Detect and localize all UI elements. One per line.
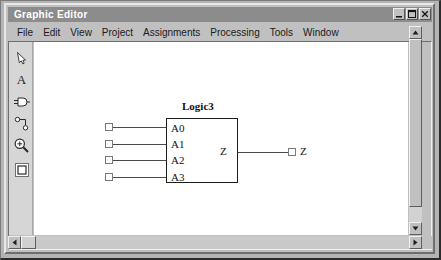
- output-wire-z[interactable]: [238, 152, 288, 153]
- magnifier-plus-icon: [13, 137, 30, 154]
- tool-palette: A: [9, 42, 33, 235]
- horizontal-scrollbar-thumb[interactable]: [21, 236, 36, 249]
- maximize-icon: [407, 9, 417, 19]
- menu-item-project[interactable]: Project: [97, 26, 138, 39]
- titlebar[interactable]: Graphic Editor: [8, 7, 432, 22]
- input-wire-a0[interactable]: [113, 127, 166, 128]
- menu-item-edit[interactable]: Edit: [38, 26, 65, 39]
- menu-item-view[interactable]: View: [65, 26, 97, 39]
- scroll-left-button[interactable]: [8, 236, 21, 249]
- close-icon: [420, 9, 430, 19]
- port-label-a0: A0: [171, 123, 184, 134]
- menubar: File Edit View Project Assignments Proce…: [8, 25, 410, 40]
- input-wire-a1[interactable]: [113, 144, 166, 145]
- resize-grip[interactable]: [422, 236, 432, 249]
- port-label-a2: A2: [171, 155, 184, 166]
- scroll-up-icon: [412, 30, 419, 35]
- scroll-right-button[interactable]: [409, 236, 422, 249]
- rectangle-select-icon: [14, 162, 30, 178]
- input-wire-a2[interactable]: [113, 160, 166, 161]
- text-a-icon: A: [17, 73, 26, 86]
- scroll-right-icon: [413, 239, 418, 246]
- scroll-left-icon: [12, 239, 17, 246]
- port-label-z: Z: [220, 146, 227, 157]
- minimize-button[interactable]: [393, 8, 405, 20]
- menu-item-tools[interactable]: Tools: [265, 26, 298, 39]
- scroll-up-button[interactable]: [409, 26, 422, 39]
- symbol-tool[interactable]: [12, 92, 31, 111]
- input-pin-a3[interactable]: [105, 173, 113, 181]
- graphic-editor-window: Graphic Editor File Edit Vie: [0, 0, 441, 260]
- output-pin-z[interactable]: [288, 148, 296, 156]
- menu-item-assignments[interactable]: Assignments: [138, 26, 205, 39]
- input-pin-a1[interactable]: [105, 140, 113, 148]
- window-controls: [393, 8, 431, 20]
- block-name-label: Logic3: [182, 100, 214, 112]
- window-title: Graphic Editor: [14, 9, 88, 20]
- logic-gate-icon: [13, 95, 31, 109]
- maximize-button[interactable]: [406, 8, 418, 20]
- vertical-scrollbar[interactable]: [409, 26, 422, 235]
- schematic-canvas[interactable]: Logic3 A0 A1 A2 A3 Z Z: [34, 42, 408, 235]
- scroll-down-button[interactable]: [409, 222, 422, 235]
- port-label-a1: A1: [171, 139, 184, 150]
- menu-item-file[interactable]: File: [12, 26, 38, 39]
- close-button[interactable]: [419, 8, 431, 20]
- menu-item-window[interactable]: Window: [298, 26, 344, 39]
- select-pointer-tool[interactable]: [12, 48, 31, 67]
- menu-item-processing[interactable]: Processing: [205, 26, 264, 39]
- output-pin-label-z: Z: [300, 146, 307, 157]
- zoom-tool[interactable]: [12, 136, 31, 155]
- input-wire-a3[interactable]: [113, 177, 166, 178]
- port-label-a3: A3: [171, 172, 184, 183]
- minimize-icon: [394, 9, 404, 19]
- input-pin-a0[interactable]: [105, 123, 113, 131]
- arrow-pointer-icon: [14, 50, 30, 66]
- horizontal-scrollbar[interactable]: [8, 236, 422, 249]
- input-pin-a2[interactable]: [105, 156, 113, 164]
- node-wire-icon: [14, 116, 30, 132]
- vertical-scrollbar-thumb[interactable]: [409, 39, 422, 207]
- text-tool[interactable]: A: [12, 70, 31, 89]
- wire-node-tool[interactable]: [12, 114, 31, 133]
- selection-rectangle-tool[interactable]: [12, 160, 31, 179]
- scroll-down-icon: [412, 226, 419, 231]
